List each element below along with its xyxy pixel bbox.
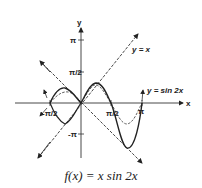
arrow-y-equals-x-neg (38, 142, 50, 158)
arrow-right-curve (142, 90, 143, 101)
x-tick-pi: π (138, 107, 144, 116)
curve-sin-2x (50, 85, 142, 124)
label-y-equals-x: y = x (131, 45, 151, 54)
y-tick-pi: π (70, 36, 76, 45)
curve-x-sin-2x (50, 83, 142, 148)
arrow-left-curve (44, 90, 47, 98)
label-y-sin-2x: y = sin 2x (146, 86, 184, 95)
axis-ticks (50, 40, 142, 134)
x-tick-pi-half: π/2 (106, 109, 119, 118)
figure-caption: f(x) = x sin 2x (0, 168, 202, 184)
y-axis-label: y (77, 18, 82, 27)
function-graph: y x π π/2 -π -π/2 π/2 π y = x y = sin 2x (0, 0, 202, 188)
x-tick-neg-pi-half: -π/2 (42, 109, 58, 118)
x-axis-label: x (186, 99, 191, 108)
arrow-y-equals-neg-x-up (40, 61, 50, 72)
y-tick-pi-half: π/2 (69, 68, 82, 77)
y-tick-neg-pi: -π (68, 130, 77, 139)
